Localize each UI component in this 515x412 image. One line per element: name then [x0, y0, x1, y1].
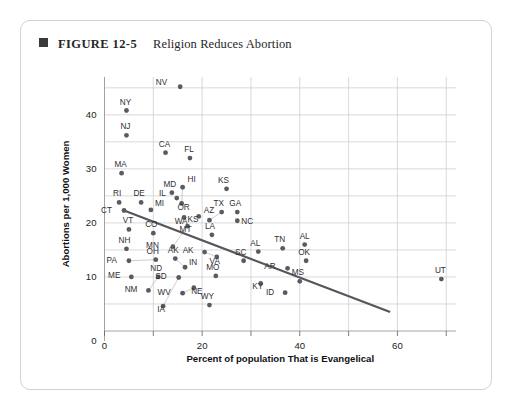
- filled-square-icon: [39, 38, 48, 47]
- figure-title: Religion Reduces Abortion: [153, 37, 292, 52]
- figure-card: FIGURE 12-5 Religion Reduces Abortion: [20, 20, 492, 390]
- figure-header: FIGURE 12-5 Religion Reduces Abortion: [39, 37, 292, 52]
- figure-number: FIGURE 12-5: [58, 37, 137, 52]
